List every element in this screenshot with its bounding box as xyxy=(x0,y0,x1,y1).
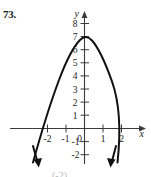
x-tick-label--1: -1 xyxy=(62,134,70,144)
y-tick-label-3: 3 xyxy=(73,85,78,95)
math-figure-73: 73. x y -2 -1 0 1 2 xyxy=(0,0,151,177)
x-tick-label--2: -2 xyxy=(44,134,52,144)
bottom-caption-fragment: (-2) xyxy=(52,170,112,177)
y-tick-label-8: 8 xyxy=(73,19,78,29)
y-axis-arrowhead xyxy=(82,11,88,18)
y-axis-group xyxy=(82,11,88,164)
parabola-right-arrowhead xyxy=(107,146,116,168)
y-tick-label-7: 7 xyxy=(73,32,78,42)
x-axis-name-label: x xyxy=(139,128,145,139)
y-axis-name-label: y xyxy=(74,8,80,19)
y-tick-label-2: 2 xyxy=(73,98,78,108)
y-tick-label--2: -2 xyxy=(72,150,80,160)
y-tick-label-1: 1 xyxy=(73,111,78,121)
x-tick-label-1: 1 xyxy=(101,134,106,144)
parabola-plot: x y -2 -1 0 1 2 8 7 6 xyxy=(0,0,151,177)
y-tick-label--1: -1 xyxy=(72,137,80,147)
y-tick-label-4: 4 xyxy=(73,71,78,81)
y-tick-label-5: 5 xyxy=(73,58,78,68)
x-axis-group xyxy=(10,126,146,132)
